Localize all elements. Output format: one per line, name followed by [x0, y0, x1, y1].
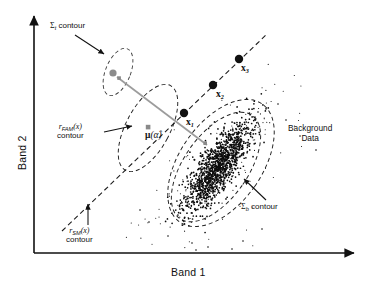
scatter-point	[211, 202, 213, 204]
scatter-point	[229, 181, 231, 183]
scatter-point	[249, 118, 251, 120]
scatter-point	[202, 215, 204, 217]
scatter-point	[202, 154, 204, 156]
scatter-point	[266, 122, 267, 123]
scatter-outlier-point	[231, 248, 233, 250]
scatter-point	[191, 193, 193, 195]
scatter-point	[206, 164, 208, 166]
mu-arg: (α̂)	[150, 130, 161, 140]
scatter-point	[220, 156, 222, 158]
scatter-point	[252, 156, 254, 158]
scatter-point	[230, 153, 232, 155]
scatter-point	[243, 157, 245, 159]
scatter-point	[205, 198, 207, 200]
scatter-point	[210, 153, 212, 155]
scatter-point	[205, 140, 207, 142]
scatter-point	[199, 161, 201, 163]
scatter-point	[184, 186, 186, 188]
scatter-point	[208, 199, 209, 200]
scatter-point	[214, 184, 216, 186]
scatter-point	[221, 163, 223, 165]
scatter-point	[225, 166, 227, 168]
scatter-point	[228, 134, 230, 136]
scatter-point	[252, 245, 253, 246]
scatter-point	[227, 165, 229, 167]
scatter-point	[236, 106, 238, 108]
scatter-point	[221, 158, 223, 160]
scatter-point	[209, 170, 211, 172]
scatter-point	[232, 127, 233, 128]
scatter-point	[220, 144, 222, 146]
scatter-point	[169, 196, 170, 197]
scatter-point	[214, 170, 216, 172]
scatter-point	[244, 122, 246, 124]
scatter-point	[241, 124, 243, 126]
scatter-point	[169, 193, 170, 194]
scatter-point	[201, 171, 203, 173]
scatter-point	[182, 205, 183, 206]
scatter-point	[218, 187, 220, 189]
scatter-point	[215, 162, 217, 164]
scatter-point	[188, 183, 190, 185]
scatter-point	[204, 163, 206, 165]
scatter-point	[259, 126, 260, 127]
scatter-point	[265, 129, 266, 130]
scatter-point	[215, 174, 217, 176]
scatter-point	[189, 159, 190, 160]
scatter-point	[209, 163, 211, 165]
scatter-point	[223, 130, 225, 132]
scatter-point	[179, 217, 180, 218]
scatter-point	[176, 200, 178, 202]
scatter-outlier-point	[207, 246, 209, 248]
scatter-point	[188, 203, 190, 205]
scatter-point	[234, 163, 236, 165]
scatter-point	[214, 168, 216, 170]
scatter-point	[227, 171, 229, 173]
scatter-point	[207, 171, 209, 173]
scatter-point	[204, 207, 206, 209]
sigma-b-subscript: b	[246, 206, 249, 212]
scatter-point	[181, 224, 182, 225]
scatter-point	[187, 205, 189, 207]
scatter-point	[236, 163, 238, 165]
scatter-point	[206, 216, 208, 218]
scatter-point	[207, 184, 209, 186]
scatter-point	[254, 150, 255, 151]
scatter-point	[273, 177, 274, 178]
scatter-point	[202, 173, 204, 175]
scatter-point	[192, 218, 194, 220]
scatter-point	[239, 122, 241, 124]
scatter-point	[301, 146, 302, 147]
scatter-point	[226, 196, 228, 198]
scatter-point	[245, 121, 247, 123]
scatter-point	[209, 172, 211, 174]
scatter-point	[206, 203, 208, 205]
scatter-point	[236, 129, 238, 131]
scatter-point	[214, 202, 216, 204]
scatter-point	[199, 184, 201, 186]
scatter-point	[210, 178, 212, 180]
scatter-point	[214, 189, 216, 191]
scatter-point	[298, 120, 299, 121]
scatter-point	[126, 237, 127, 238]
scatter-point	[208, 196, 210, 198]
scatter-point	[234, 122, 236, 124]
scatter-point	[209, 184, 211, 186]
scatter-point	[232, 154, 234, 156]
scatter-point	[238, 172, 240, 174]
scatter-point	[212, 153, 214, 155]
scatter-point	[198, 176, 200, 178]
scatter-point	[236, 122, 238, 124]
scatter-point	[217, 193, 218, 194]
scatter-point	[200, 152, 202, 154]
scatter-point	[234, 137, 236, 139]
scatter-point	[221, 141, 223, 143]
scatter-point	[172, 212, 173, 213]
scatter-point	[215, 177, 217, 179]
scatter-point	[245, 133, 247, 135]
scatter-point	[187, 187, 189, 189]
scatter-point	[195, 186, 197, 188]
scatter-point	[262, 122, 263, 123]
scatter-point	[208, 177, 210, 179]
scatter-point	[233, 133, 235, 135]
